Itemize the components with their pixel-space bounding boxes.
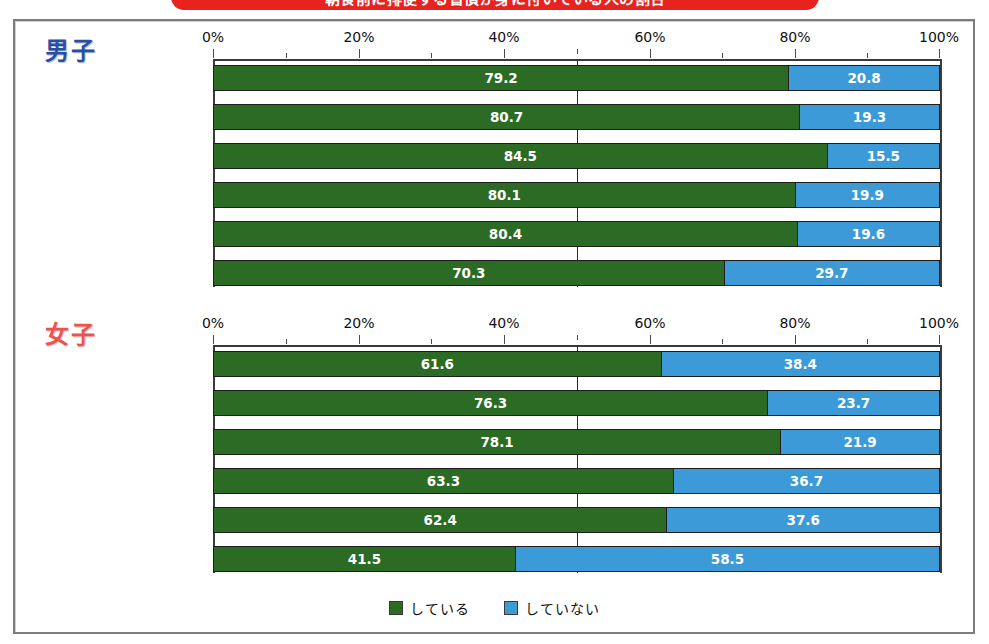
table-row: 小学校3・4年生 84.5 15.5 bbox=[15, 143, 973, 169]
bar-track[interactable]: 80.1 19.9 bbox=[213, 182, 940, 208]
bar-segment-no: 36.7 bbox=[673, 469, 939, 493]
table-row: 高校生 70.3 29.7 bbox=[15, 260, 973, 286]
category-axis-boys bbox=[213, 59, 215, 287]
axis-tick-0: 0% bbox=[202, 29, 224, 45]
category-axis-right-boys bbox=[940, 59, 942, 287]
table-row: 全体 79.2 20.8 bbox=[15, 65, 973, 91]
table-row: 小学校3・4年生 78.1 21.9 bbox=[15, 429, 973, 455]
axis-tick-60: 60% bbox=[634, 29, 665, 45]
bar-track[interactable]: 61.6 38.4 bbox=[213, 351, 940, 377]
legend-swatch-blue-icon bbox=[504, 601, 518, 615]
bar-track[interactable]: 62.4 37.6 bbox=[213, 507, 940, 533]
axis-tick-40: 40% bbox=[488, 315, 519, 331]
bar-track[interactable]: 80.4 19.6 bbox=[213, 221, 940, 247]
table-row: 小学校1・2年生 80.7 19.3 bbox=[15, 104, 973, 130]
table-row: 高校生 41.5 58.5 bbox=[15, 546, 973, 572]
bar-segment-yes: 41.5 bbox=[214, 547, 515, 571]
bar-track[interactable]: 80.7 19.3 bbox=[213, 104, 940, 130]
section-heading-boys: 男子 bbox=[45, 31, 97, 66]
table-row: 小学校5・6年生 63.3 36.7 bbox=[15, 468, 973, 494]
axis-tick-20: 20% bbox=[343, 29, 374, 45]
mid-rule-boys bbox=[577, 59, 578, 287]
bar-segment-yes: 76.3 bbox=[214, 391, 767, 415]
bar-segment-no: 20.8 bbox=[788, 66, 939, 90]
legend-swatch-green-icon bbox=[389, 601, 403, 615]
bar-segment-no: 23.7 bbox=[767, 391, 939, 415]
table-row: 全体 61.6 38.4 bbox=[15, 351, 973, 377]
chart-title-banner: 朝食前に排便する習慣が身に付いている人の割合 bbox=[171, 0, 819, 10]
bar-segment-yes: 80.1 bbox=[214, 183, 795, 207]
table-row: 小学校1・2年生 76.3 23.7 bbox=[15, 390, 973, 416]
bar-track[interactable]: 79.2 20.8 bbox=[213, 65, 940, 91]
axis-tick-100: 100% bbox=[919, 29, 959, 45]
axis-tick-60: 60% bbox=[634, 315, 665, 331]
bar-segment-yes: 80.7 bbox=[214, 105, 799, 129]
category-axis-girls bbox=[213, 345, 215, 573]
legend-label-no: していない bbox=[525, 598, 600, 618]
bar-track[interactable]: 76.3 23.7 bbox=[213, 390, 940, 416]
bar-segment-yes: 70.3 bbox=[214, 261, 724, 285]
legend-item-yes[interactable]: している bbox=[389, 598, 470, 618]
bar-segment-yes: 79.2 bbox=[214, 66, 788, 90]
axis-tick-80: 80% bbox=[779, 315, 810, 331]
bar-segment-yes: 80.4 bbox=[214, 222, 797, 246]
bar-track[interactable]: 70.3 29.7 bbox=[213, 260, 940, 286]
bar-track[interactable]: 63.3 36.7 bbox=[213, 468, 940, 494]
legend-item-no[interactable]: していない bbox=[504, 598, 600, 618]
bar-segment-no: 19.9 bbox=[795, 183, 939, 207]
bar-segment-no: 37.6 bbox=[666, 508, 939, 532]
table-row: 小学校5・6年生 80.1 19.9 bbox=[15, 182, 973, 208]
table-row: 中学生 80.4 19.6 bbox=[15, 221, 973, 247]
axis-tick-40: 40% bbox=[488, 29, 519, 45]
bar-track[interactable]: 41.5 58.5 bbox=[213, 546, 940, 572]
bar-segment-no: 19.6 bbox=[797, 222, 939, 246]
bar-segment-yes: 62.4 bbox=[214, 508, 666, 532]
chart-legend: している していない bbox=[15, 598, 973, 618]
chart-title: 朝食前に排便する習慣が身に付いている人の割合 bbox=[325, 0, 666, 8]
bar-segment-no: 21.9 bbox=[780, 430, 939, 454]
bar-segment-no: 38.4 bbox=[661, 352, 939, 376]
bar-track[interactable]: 78.1 21.9 bbox=[213, 429, 940, 455]
bar-segment-no: 19.3 bbox=[799, 105, 939, 129]
axis-tick-0: 0% bbox=[202, 315, 224, 331]
bar-segment-yes: 78.1 bbox=[214, 430, 780, 454]
bar-segment-yes: 84.5 bbox=[214, 144, 827, 168]
axis-tick-100: 100% bbox=[919, 315, 959, 331]
chart-frame: 男子 0% 20% 40% 60% 80% 100% bbox=[13, 19, 975, 634]
mid-rule-girls bbox=[577, 345, 578, 573]
bar-segment-no: 58.5 bbox=[515, 547, 939, 571]
bar-segment-yes: 61.6 bbox=[214, 352, 661, 376]
legend-label-yes: している bbox=[410, 598, 470, 618]
bar-segment-no: 15.5 bbox=[827, 144, 939, 168]
axis-tick-20: 20% bbox=[343, 315, 374, 331]
bar-track[interactable]: 84.5 15.5 bbox=[213, 143, 940, 169]
bar-segment-no: 29.7 bbox=[724, 261, 939, 285]
axis-tick-80: 80% bbox=[779, 29, 810, 45]
section-heading-girls: 女子 bbox=[45, 315, 97, 350]
category-axis-right-girls bbox=[940, 345, 942, 573]
bar-segment-yes: 63.3 bbox=[214, 469, 673, 493]
table-row: 中学生 62.4 37.6 bbox=[15, 507, 973, 533]
